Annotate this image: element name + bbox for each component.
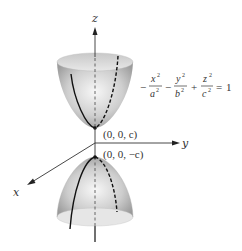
- lower-sheet: [57, 155, 133, 229]
- eq-term2-den-exp: 2: [181, 87, 184, 93]
- lower-vertex-label: (0, 0, −c): [103, 148, 144, 161]
- eq-term1-num-exp: 2: [157, 72, 160, 78]
- eq-term1-sign: −: [140, 81, 146, 93]
- eq-term3-sign: +: [191, 81, 197, 93]
- equation: − x 2 a 2 − y 2 b 2 + z 2 c 2 = 1: [140, 72, 232, 99]
- eq-term2-den: b: [175, 88, 180, 99]
- z-axis-label: z: [91, 12, 98, 25]
- eq-term2-num: y: [175, 73, 181, 84]
- eq-term3-num: z: [202, 73, 207, 84]
- eq-term2-num-exp: 2: [182, 72, 185, 78]
- x-axis-label: x: [13, 186, 20, 199]
- z-axis-arrow: [93, 27, 98, 35]
- hyperboloid-diagram: z y x (0, 0, c) (0, 0, −c) − x 2 a 2 − y…: [0, 0, 242, 251]
- y-axis-arrow: [172, 141, 180, 146]
- upper-vertex-label: (0, 0, c): [103, 128, 138, 141]
- eq-rhs: 1: [226, 81, 232, 93]
- y-axis-label: y: [181, 137, 189, 150]
- eq-term1-den: a: [150, 88, 155, 99]
- eq-term3-den: c: [202, 88, 207, 99]
- x-axis-arrow: [27, 179, 36, 186]
- eq-equals: =: [216, 81, 222, 93]
- eq-term2-sign: −: [165, 81, 171, 93]
- eq-term1-den-exp: 2: [156, 87, 159, 93]
- eq-term1-num: x: [150, 73, 156, 84]
- lower-vertex-dot: [93, 155, 97, 159]
- eq-term3-num-exp: 2: [209, 72, 212, 78]
- upper-sheet: [57, 53, 133, 130]
- eq-term3-den-exp: 2: [208, 87, 211, 93]
